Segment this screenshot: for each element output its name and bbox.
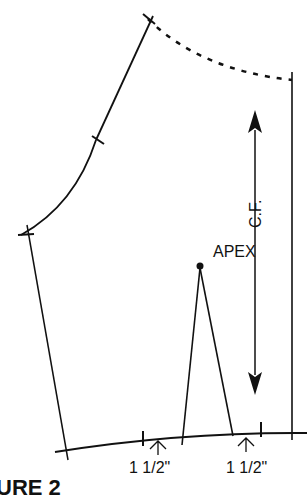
shoulder-line xyxy=(96,16,153,140)
dart-leg-right xyxy=(200,268,233,436)
measure-right-label: 1 1/2" xyxy=(226,459,267,477)
center-front-label: C.F. xyxy=(247,200,265,228)
waistline xyxy=(55,433,307,452)
grainline-arrow-top-icon xyxy=(248,110,262,133)
grainline-arrow-bottom-icon xyxy=(248,372,262,395)
apex-label: APEX xyxy=(213,243,256,261)
side-seam xyxy=(27,225,68,460)
neckline-dashed xyxy=(148,19,292,80)
apex-dot xyxy=(197,263,204,270)
neck-notch xyxy=(143,14,155,24)
underarm-notch xyxy=(18,234,34,235)
armhole-curve xyxy=(21,140,96,235)
figure-caption: URE 2 xyxy=(0,475,61,499)
measure-left-label: 1 1/2" xyxy=(129,459,170,477)
arrow-up-left xyxy=(150,441,166,455)
dart-leg-left xyxy=(182,268,200,445)
arrow-up-right xyxy=(238,438,254,452)
